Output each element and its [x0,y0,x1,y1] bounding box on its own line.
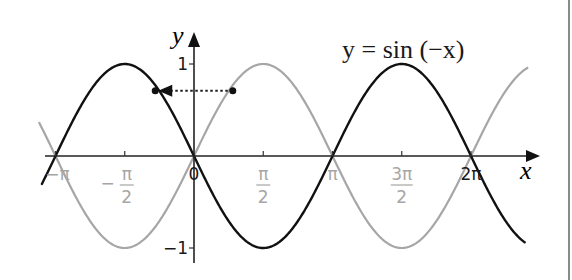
x-tick-label: −π [45,164,69,184]
sine-reflection-chart: −ππ2−0π2π3π22π1−1 y = sin (−x) y x [0,0,572,280]
x-tick-denominator: 2 [258,187,269,207]
x-tick-numerator: π [258,164,268,184]
x-tick-label: 2π [460,164,481,184]
target-point-dot [152,87,159,94]
x-tick-label: π [327,164,337,184]
chart-canvas: −ππ2−0π2π3π22π1−1 y = sin (−x) y x [0,0,572,280]
x-tick-denominator: 2 [121,187,132,207]
equation-label: y = sin (−x) [342,35,464,64]
x-axis-label: x [519,156,532,185]
x-tick-numerator: 3π [391,164,412,184]
frame-border [568,0,570,280]
source-point-dot [229,87,236,94]
arrowhead-left-icon [158,85,172,97]
y-tick-label: −1 [163,238,188,258]
x-tick-numerator: π [122,164,132,184]
y-axis-arrow-icon [188,32,200,47]
y-tick-label: 1 [177,54,188,74]
y-axis-label: y [169,21,184,50]
x-tick-denominator: 2 [396,187,407,207]
x-tick-label: 0 [189,164,200,184]
x-tick-sign: − [101,173,115,193]
